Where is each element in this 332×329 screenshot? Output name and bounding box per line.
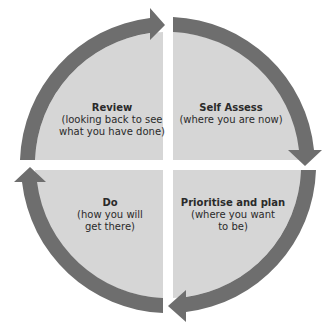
do-subtitle-line2: get there) xyxy=(60,221,160,233)
review-title: Review xyxy=(52,102,172,114)
prioritise-subtitle-line2: to be) xyxy=(174,221,292,233)
quadrant-prioritise xyxy=(173,170,301,298)
prioritise-title: Prioritise and plan xyxy=(174,197,292,209)
quadrant-review xyxy=(35,32,163,160)
do-label: Do (how you will get there) xyxy=(60,197,160,233)
self-assess-subtitle-line1: (where you are now) xyxy=(172,114,290,126)
cycle-diagram xyxy=(0,0,332,329)
cycle-arrows xyxy=(14,8,322,322)
do-subtitle-line1: (how you will xyxy=(60,209,160,221)
prioritise-subtitle-line1: (where you want xyxy=(174,209,292,221)
quadrant-fills xyxy=(35,32,301,298)
review-subtitle-line2: what you have done) xyxy=(52,126,172,138)
prioritise-label: Prioritise and plan (where you want to b… xyxy=(174,197,292,233)
review-label: Review (looking back to see what you hav… xyxy=(52,102,172,138)
self-assess-title: Self Assess xyxy=(172,102,290,114)
self-assess-label: Self Assess (where you are now) xyxy=(172,102,290,126)
review-subtitle-line1: (looking back to see xyxy=(52,114,172,126)
do-title: Do xyxy=(60,197,160,209)
